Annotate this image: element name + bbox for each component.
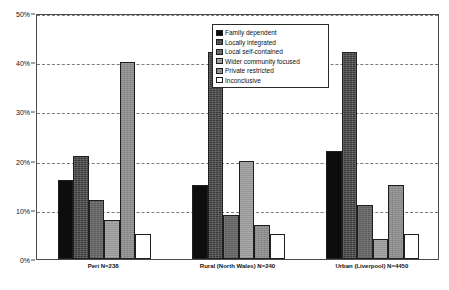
x-axis: Peri N=238Rural (North Wales) N=240Urban… (36, 263, 439, 277)
y-axis: 0%10%20%30%40%50% (0, 14, 34, 260)
bar (388, 185, 404, 259)
x-group-label: Rural (North Wales) N=240 (200, 263, 275, 269)
legend-item: Locally integrated (216, 38, 325, 48)
bar (89, 200, 105, 259)
bar (270, 234, 286, 259)
legend-swatch-icon (216, 58, 223, 64)
bar (192, 185, 208, 259)
bar-chart: 0%10%20%30%40%50% Peri N=238Rural (North… (0, 0, 449, 290)
legend-label: Inconclusive (225, 76, 261, 85)
legend-label: Family dependent (225, 28, 277, 37)
legend-item: Family dependent (216, 28, 325, 38)
legend-label: Local self-contained (225, 47, 283, 56)
legend-swatch-icon (216, 30, 223, 36)
bar (239, 161, 255, 259)
y-tick-mark (31, 210, 35, 211)
bar (120, 62, 136, 259)
bar (135, 234, 151, 259)
y-tick-mark (31, 260, 35, 261)
legend-label: Private restricted (225, 66, 274, 75)
legend-item: Local self-contained (216, 47, 325, 57)
y-tick-mark (31, 63, 35, 64)
legend-swatch-icon (216, 77, 223, 83)
y-tick-mark (31, 112, 35, 113)
legend-label: Wider community focused (225, 57, 300, 66)
y-tick-label: 30% (16, 109, 30, 116)
bar (342, 52, 358, 259)
legend-swatch-icon (216, 39, 223, 45)
bar (357, 205, 373, 259)
bar (104, 220, 120, 259)
y-tick-label: 10% (16, 207, 30, 214)
bar (404, 234, 420, 259)
x-group-label: Urban (Liverpool) N=4450 (335, 263, 408, 269)
legend-swatch-icon (216, 68, 223, 74)
y-tick-label: 50% (16, 11, 30, 18)
bar (373, 239, 389, 259)
legend-label: Locally integrated (225, 38, 276, 47)
bar (58, 180, 74, 259)
y-tick-label: 40% (16, 60, 30, 67)
legend-swatch-icon (216, 49, 223, 55)
bar (223, 215, 239, 259)
x-group-label: Peri N=238 (88, 263, 119, 269)
legend: Family dependentLocally integratedLocal … (212, 24, 329, 88)
legend-item: Private restricted (216, 66, 325, 76)
y-tick-mark (31, 14, 35, 15)
y-tick-mark (31, 161, 35, 162)
bar (73, 156, 89, 259)
legend-item: Inconclusive (216, 76, 325, 86)
y-tick-label: 0% (20, 257, 30, 264)
y-tick-label: 20% (16, 158, 30, 165)
legend-item: Wider community focused (216, 57, 325, 67)
bar (254, 225, 270, 259)
bar (326, 151, 342, 259)
